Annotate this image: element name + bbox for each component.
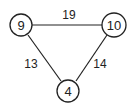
edge-label-9-4: 13 [24, 57, 38, 71]
edge-label-9-10: 19 [62, 8, 76, 22]
node-label-4: 4 [64, 84, 71, 99]
graph-diagram: 19 13 14 9 10 4 [0, 0, 133, 110]
node-label-10: 10 [107, 18, 121, 33]
edge-label-10-4: 14 [93, 57, 107, 71]
node-label-9: 9 [17, 18, 24, 33]
